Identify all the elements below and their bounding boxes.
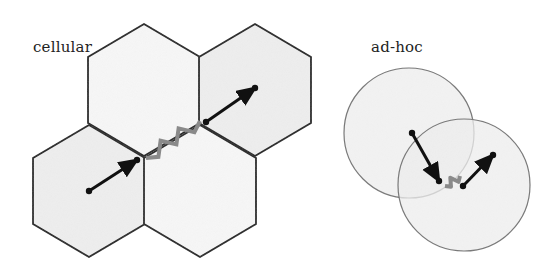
node-dot: [409, 130, 415, 136]
network-diagram: [0, 0, 559, 269]
diagram-canvas: cellular ad-hoc: [0, 0, 559, 269]
ad-hoc-network: [344, 68, 530, 251]
node-dot: [436, 178, 442, 184]
node-dot: [134, 157, 140, 163]
node-dot: [203, 119, 209, 125]
node-dot: [490, 152, 496, 158]
node-dot: [460, 183, 466, 189]
node-dot: [86, 188, 92, 194]
node-dot: [252, 85, 258, 91]
cellular-network: [33, 24, 311, 257]
